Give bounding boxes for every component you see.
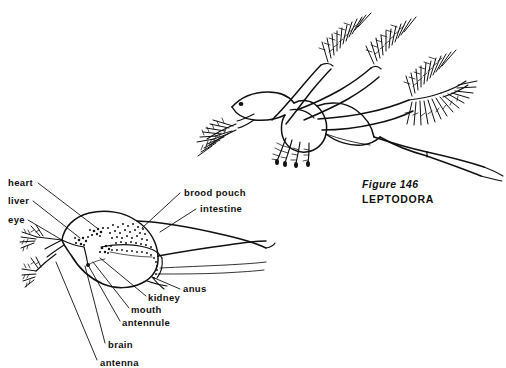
antenna-ramus-upper-left <box>319 13 371 62</box>
antenna-ramus-right-lower <box>405 81 477 125</box>
organ-brain <box>99 245 112 254</box>
organ-heart <box>89 227 104 237</box>
brood-pouch-stipple <box>107 223 152 248</box>
figure-plate: Figure 146 LEPTODORA <box>0 0 506 368</box>
label-brood-pouch: brood pouch <box>184 187 246 198</box>
label-brain: brain <box>108 339 133 350</box>
leader-antennule <box>88 265 120 321</box>
leader-kidney <box>100 258 146 296</box>
label-leader-lines <box>28 183 196 360</box>
label-anus: anus <box>183 283 207 294</box>
label-liver: liver <box>8 195 29 206</box>
figure-caption: Figure 146 LEPTODORA <box>362 178 434 205</box>
leader-heart <box>38 183 97 228</box>
antenna-branch-lower <box>22 257 41 287</box>
organ-intestine <box>110 249 158 279</box>
thoracic-limbs <box>272 138 310 168</box>
antenna-ramus-middle <box>366 17 416 64</box>
leader-liver <box>33 201 80 238</box>
label-mouth: mouth <box>131 304 162 315</box>
caption-species-name: LEPTODORA <box>362 193 434 205</box>
anatomy-antenna-feathered <box>20 225 62 287</box>
illustration-canvas: Figure 146 LEPTODORA <box>0 0 506 368</box>
caption-number: Figure 146 <box>362 178 419 190</box>
antenna-left-setae <box>197 120 233 156</box>
organ-liver <box>74 236 89 246</box>
label-antenna: antenna <box>100 357 139 368</box>
label-eye: eye <box>8 214 25 225</box>
label-intestine: intestine <box>200 203 242 214</box>
leader-anus <box>152 277 180 289</box>
leader-mouth <box>93 262 129 308</box>
label-antennule: antennule <box>122 317 170 328</box>
abdomen-tail <box>326 134 503 181</box>
compound-eye <box>239 102 244 106</box>
label-heart: heart <box>8 177 33 188</box>
antenna-left-feathered <box>197 118 236 156</box>
leader-eye <box>28 220 62 240</box>
antenna-branch-upper <box>20 225 43 248</box>
antenna-ramus-right-upper <box>404 50 456 96</box>
label-kidney: kidney <box>148 292 181 303</box>
leader-intestine <box>160 209 196 232</box>
habitus-drawing <box>197 13 503 181</box>
antenna-basal-segments <box>272 64 413 130</box>
anatomy-labels: heart liver eye brood pouch intestine an… <box>8 177 246 368</box>
